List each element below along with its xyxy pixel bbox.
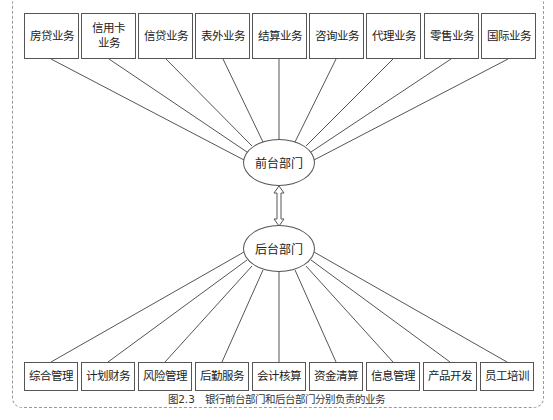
box-label: 房贷业务 [30,29,74,44]
box-label: 计划财务 [86,369,130,384]
caption-text: 银行前台部门和后台部门分别负责的业务 [205,393,385,405]
back-business-box: 信息管理 [366,362,420,391]
box-label: 表外业务 [201,29,245,44]
box-label: 信贷业务 [144,29,188,44]
box-label: 代理业务 [372,29,416,44]
back-business-box: 后勤服务 [195,362,249,391]
back-business-box: 资金清算 [309,362,363,391]
node-label: 后台部门 [255,240,303,257]
box-label: 后勤服务 [200,369,244,384]
front-business-box: 国际业务 [481,13,536,59]
box-label: 产品开发 [428,369,472,384]
box-label: 员工培训 [485,369,529,384]
figure-caption: 图2.3银行前台部门和后台部门分别负责的业务 [0,391,553,406]
back-business-box: 产品开发 [423,362,477,391]
front-business-box: 结算业务 [252,13,307,59]
node-label: 前台部门 [255,154,303,171]
box-label: 信息管理 [371,369,415,384]
back-department-node: 后台部门 [243,225,315,272]
front-business-box: 零售业务 [424,13,479,59]
back-business-box: 计划财务 [81,362,135,391]
front-business-box: 房贷业务 [24,13,79,59]
front-business-box: 信用卡业务 [81,13,136,59]
front-business-box: 信贷业务 [138,13,193,59]
front-department-node: 前台部门 [243,139,315,186]
front-business-box: 咨询业务 [309,13,364,59]
box-label: 信用卡业务 [91,21,126,51]
back-business-box: 会计核算 [252,362,306,391]
box-label: 会计核算 [257,369,301,384]
connector-lines [0,0,553,420]
back-business-box: 风险管理 [138,362,192,391]
figure-number: 图2.3 [168,393,195,405]
front-business-box: 表外业务 [195,13,250,59]
box-label: 国际业务 [487,29,531,44]
box-label: 风险管理 [143,369,187,384]
box-label: 结算业务 [258,29,302,44]
box-label: 资金清算 [314,369,358,384]
box-label: 零售业务 [430,29,474,44]
box-label: 咨询业务 [315,29,359,44]
box-label: 综合管理 [29,369,73,384]
back-business-box: 员工培训 [480,362,534,391]
double-arrow-icon [274,186,284,226]
back-business-box: 综合管理 [24,362,78,391]
front-business-box: 代理业务 [366,13,421,59]
